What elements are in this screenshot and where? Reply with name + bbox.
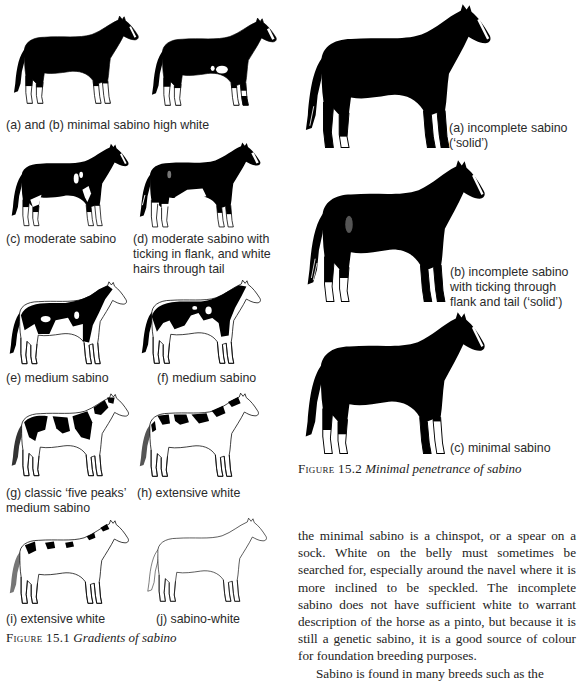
caption-d-line-2: ticking in flank, and white: [133, 247, 271, 262]
horse-illustration-icon: [136, 390, 262, 482]
horse-illustration-icon: [6, 278, 130, 370]
fig-15-1-horse-e: [6, 278, 130, 370]
figure-title: Minimal penetrance of sabino: [365, 461, 521, 476]
body-text: the minimal sabino is a chinspot, or a s…: [298, 527, 576, 682]
caption-d-line-3: hairs through tail: [133, 262, 225, 277]
horse-illustration-icon: [136, 140, 264, 232]
figure-label: Figure 15.2: [298, 461, 362, 476]
horse-illustration-icon: [144, 512, 270, 610]
caption-f: (f) medium sabino: [157, 371, 256, 386]
fig-15-1-horse-d: [136, 140, 264, 232]
figure-label: Figure 15.1: [6, 630, 70, 645]
caption-c: (c) moderate sabino: [6, 232, 116, 247]
horse-illustration-icon: [8, 140, 132, 232]
caption-h: (h) extensive white: [137, 486, 240, 501]
fig-15-1-horse-b: [148, 14, 280, 112]
caption-d-line-1: (d) moderate sabino with: [133, 232, 269, 247]
fig-15-2-caption-a-line-2: (‘solid’): [449, 136, 488, 151]
caption-e: (e) medium sabino: [6, 371, 109, 386]
horse-illustration-icon: [10, 12, 142, 110]
fig-15-1-horse-j: [144, 512, 270, 610]
horse-illustration-icon: [6, 516, 132, 610]
caption-a-b: (a) and (b) minimal sabino high white: [6, 118, 209, 133]
fig-15-2-caption-c: (c) minimal sabino: [450, 441, 551, 456]
fig-15-2-caption-a-line-1: (a) incomplete sabino: [449, 121, 567, 136]
horse-illustration-icon: [138, 276, 264, 370]
fig-15-1-horse-a: [10, 12, 142, 110]
caption-j: (j) sabino-white: [156, 612, 240, 627]
fig-15-1-horse-f: [138, 276, 264, 370]
fig-15-2-caption-b-line-1: (b) incomplete sabino: [450, 265, 568, 280]
figure-title: Gradients of sabino: [73, 630, 176, 645]
fig-15-1-horse-c: [8, 140, 132, 232]
caption-i: (i) extensive white: [6, 612, 105, 627]
caption-g-line-1: (g) classic ‘five peaks’: [6, 486, 127, 501]
figure-15-1-caption: Figure 15.1 Gradients of sabino: [6, 630, 177, 646]
horse-illustration-icon: [300, 310, 490, 460]
fig-15-1-horse-h: [136, 390, 262, 482]
horse-illustration-icon: [8, 390, 132, 482]
fig-15-1-horse-i: [6, 516, 132, 610]
fig-15-1-horse-g: [8, 390, 132, 482]
fig-15-2-caption-b-line-3: flank and tail (‘solid’): [450, 295, 562, 310]
paragraph: Sabino is found in many breeds such as t…: [298, 665, 576, 682]
figure-15-2-caption: Figure 15.2 Minimal penetrance of sabino: [298, 461, 522, 477]
fig-15-2-horse-c: [300, 310, 490, 460]
paragraph: the minimal sabino is a chinspot, or a s…: [298, 527, 576, 665]
fig-15-2-caption-b-line-2: with ticking through: [450, 280, 556, 295]
horse-illustration-icon: [148, 14, 280, 112]
caption-g-line-2: medium sabino: [6, 501, 90, 516]
